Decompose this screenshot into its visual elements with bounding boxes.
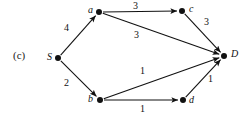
graph-canvas [0, 0, 249, 115]
graph-edge-c-D [185, 14, 221, 52]
graph-edge-a-D [103, 13, 220, 54]
edge-weight-b-d: 1 [140, 104, 145, 114]
edge-weight-a-D: 3 [134, 30, 139, 40]
edge-weight-S-a: 4 [64, 23, 69, 33]
edge-weight-c-D: 3 [204, 17, 209, 27]
edge-weight-b-D: 1 [140, 66, 145, 76]
node-label-c: c [189, 4, 193, 14]
node-label-b: b [88, 94, 93, 104]
graph-node-a [96, 9, 102, 15]
edge-weight-S-b: 2 [64, 78, 69, 88]
node-layer [55, 8, 227, 103]
graph-node-b [97, 97, 103, 103]
node-label-a: a [88, 5, 93, 15]
graph-node-d [180, 97, 186, 103]
node-label-D: D [231, 49, 238, 59]
edge-layer [61, 11, 221, 100]
node-label-S: S [47, 52, 52, 62]
graph-edge-d-D [186, 60, 221, 97]
graph-edge-a-c [103, 11, 177, 12]
graph-edge-b-D [104, 58, 220, 99]
edge-weight-a-c: 3 [133, 1, 138, 11]
graph-node-c [179, 8, 185, 14]
graph-figure: (c) SabcdD 42333111 [0, 0, 249, 115]
node-label-d: d [189, 95, 194, 105]
panel-label: (c) [13, 50, 25, 61]
edge-weight-d-D: 1 [208, 74, 213, 84]
graph-node-S [55, 55, 61, 61]
graph-node-D [221, 53, 227, 59]
